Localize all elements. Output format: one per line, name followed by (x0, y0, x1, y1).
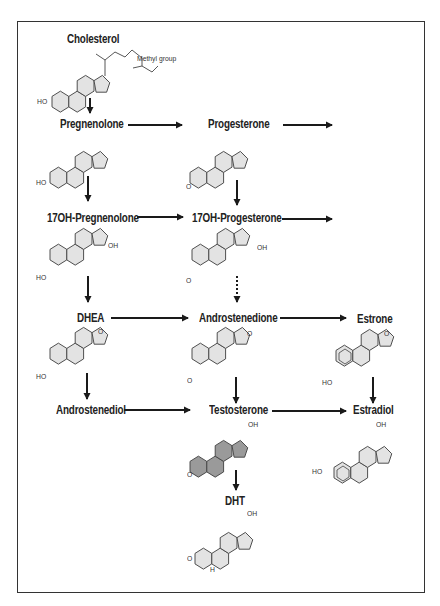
label-dht-o: O (187, 554, 192, 563)
label-estradiol: Estradiol (353, 403, 394, 417)
label-estrone-ho: HO (322, 378, 332, 387)
label-dht-h: H (210, 565, 215, 574)
label-testosterone-o: O (187, 470, 192, 479)
label-estradiol-ho: HO (312, 467, 322, 476)
label-androstenedione: Androstenedione (199, 311, 277, 325)
testosterone-structure (190, 440, 248, 477)
cholesterol-structure (52, 75, 110, 112)
label-progesterone: Progesterone (208, 117, 269, 131)
label-dhea: DHEA (77, 311, 104, 325)
label-17oh-progesterone-oh: OH (257, 243, 267, 252)
label-cholesterol-ho: HO (37, 97, 47, 106)
dht-structure (195, 532, 253, 569)
label-17oh-progesterone-o: O (186, 276, 191, 285)
label-dhea-ho: HO (36, 372, 46, 381)
label-17oh-pregnenolone-ho: HO (36, 273, 46, 282)
label-dht-oh: OH (247, 509, 257, 518)
label-pregnenolone: Pregnenolone (60, 117, 124, 131)
label-testosterone-oh: OH (248, 420, 258, 429)
label-estrone-keto: O (384, 329, 389, 338)
estradiol-structure (334, 446, 392, 483)
label-androstenediol: Androstenediol (56, 403, 126, 417)
label-17oh-progesterone: 17OH-Progesterone (192, 211, 282, 225)
label-17oh-pregnenolone-oh: OH (108, 241, 118, 250)
label-progesterone-o: O (186, 182, 191, 191)
pregnenolone-structure (50, 151, 108, 188)
label-dhea-keto: O (98, 327, 103, 336)
label-estradiol-oh: OH (376, 420, 386, 429)
label-pregnenolone-ho: HO (36, 178, 46, 187)
pathway-diagram (0, 0, 440, 606)
label-dht: DHT (225, 494, 245, 508)
label-17oh-pregnenolone: 17OH-Pregnenolone (47, 211, 139, 225)
label-methyl-group: Methyl group (137, 54, 176, 63)
label-estrone: Estrone (357, 312, 392, 326)
label-cholesterol: Cholesterol (67, 32, 119, 46)
label-testosterone: Testosterone (209, 403, 268, 417)
label-androstenedione-o: O (187, 376, 192, 385)
17oh-progesterone-structure (192, 228, 250, 265)
androstenedione-structure (192, 327, 250, 364)
17oh-pregnenolone-structure (50, 228, 108, 265)
label-androstenedione-keto: O (247, 329, 252, 338)
progesterone-structure (190, 151, 248, 188)
